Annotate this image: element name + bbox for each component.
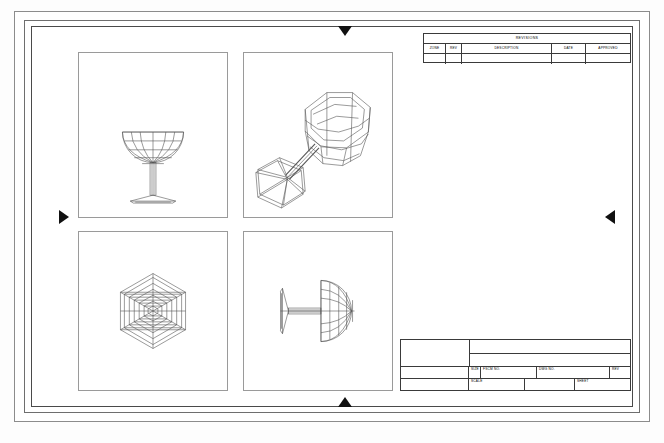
scale-label: SCALE [471, 380, 482, 383]
rev-label: REV [612, 368, 619, 371]
revision-col-rev: REV [446, 44, 462, 53]
revision-block: REVISIONS ZONE REV DESCRIPTION DATE APPR… [423, 33, 631, 63]
title-block-scale-row: SCALE SHEET [401, 379, 630, 390]
fscm-label: FSCM NO. [483, 368, 500, 371]
revision-col-date: DATE [552, 44, 586, 53]
title-block-size-row: SIZE FSCM NO. DWG NO. REV [401, 367, 630, 379]
wine-glass-front-view-geometry [79, 53, 227, 217]
viewport-side-view[interactable] [243, 231, 393, 391]
fscm-field[interactable]: FSCM NO. [481, 367, 537, 378]
sheet-field[interactable]: SHEET [575, 379, 630, 390]
title-block-left-column [401, 340, 470, 366]
revision-col-approved: APPROVED [586, 44, 630, 53]
title-block-upper [401, 340, 630, 367]
title-block-right-column [470, 340, 630, 366]
revision-col-description: DESCRIPTION [462, 44, 552, 53]
rev-field[interactable]: REV [610, 367, 630, 378]
dwg-number-field[interactable]: DWG NO. [537, 367, 610, 378]
viewport-front-view[interactable] [78, 52, 228, 218]
title-block-left-cell[interactable] [401, 340, 469, 366]
revision-title-text: REVISIONS [516, 37, 539, 41]
size-label: SIZE [471, 368, 479, 371]
drawing-sheet: REVISIONS ZONE REV DESCRIPTION DATE APPR… [0, 0, 664, 443]
title-block-middle-cell[interactable] [525, 379, 575, 390]
drawing-title-field[interactable] [470, 340, 630, 354]
revision-cell-description[interactable] [462, 54, 552, 64]
scale-field[interactable]: SCALE [469, 379, 525, 390]
title-block-footer-cell[interactable] [401, 379, 469, 390]
revision-block-title: REVISIONS [424, 34, 630, 44]
title-block-notes-cell[interactable] [401, 367, 469, 378]
size-field[interactable]: SIZE [469, 367, 481, 378]
revision-cell-date[interactable] [552, 54, 586, 64]
revision-cell-approved[interactable] [586, 54, 630, 64]
center-mark-left-icon [59, 210, 69, 224]
revision-col-zone: ZONE [424, 44, 446, 53]
wine-glass-side-view-geometry [244, 232, 392, 390]
revision-cell-zone[interactable] [424, 54, 446, 64]
sheet-label: SHEET [577, 380, 589, 383]
drawing-subtitle-field[interactable] [470, 354, 630, 366]
revision-cell-rev[interactable] [446, 54, 462, 64]
wine-glass-isometric-view-geometry [244, 53, 392, 217]
revision-header-row: ZONE REV DESCRIPTION DATE APPROVED [424, 44, 630, 54]
viewport-top-view[interactable] [78, 231, 228, 391]
wine-glass-top-view-geometry [79, 232, 227, 390]
center-mark-right-icon [605, 210, 615, 224]
title-block: SIZE FSCM NO. DWG NO. REV SCALE SHEET [400, 339, 631, 391]
viewport-isometric-view[interactable] [243, 52, 393, 218]
center-mark-top-icon [338, 26, 352, 36]
revision-data-row[interactable] [424, 54, 630, 64]
dwg-label: DWG NO. [539, 368, 555, 371]
center-mark-bottom-icon [338, 397, 352, 407]
